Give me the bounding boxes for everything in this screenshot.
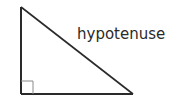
hypotenuse-line [21, 7, 133, 94]
right-triangle-diagram [0, 0, 191, 101]
hypotenuse-label: hypotenuse [77, 25, 165, 43]
right-angle-marker [21, 81, 33, 94]
